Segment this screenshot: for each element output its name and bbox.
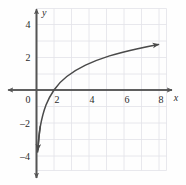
x-tick-label-6: 6 (125, 94, 130, 105)
x-tick-label-2: 2 (55, 94, 60, 105)
x-tick-label-8: 8 (159, 94, 164, 105)
y-tick-label-minus-2: –2 (19, 118, 30, 129)
y-tick-label-minus-4: –4 (19, 151, 30, 162)
y-tick-label-2: 2 (26, 52, 31, 63)
y-tick-label-4: 4 (26, 19, 31, 30)
origin-tick-label: 0 (26, 94, 31, 105)
graph-figure: y x 0 2 4 6 8 4 2 –2 –4 (0, 0, 186, 185)
y-axis-label: y (41, 7, 47, 18)
log-curve-lower-tail (38, 127, 40, 151)
coordinate-plane-chart: y x 0 2 4 6 8 4 2 –2 –4 (0, 0, 186, 185)
x-tick-label-4: 4 (90, 94, 95, 105)
x-axis-label: x (173, 92, 179, 103)
